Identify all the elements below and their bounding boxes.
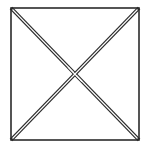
square-diagonals-diagram [0, 0, 145, 150]
